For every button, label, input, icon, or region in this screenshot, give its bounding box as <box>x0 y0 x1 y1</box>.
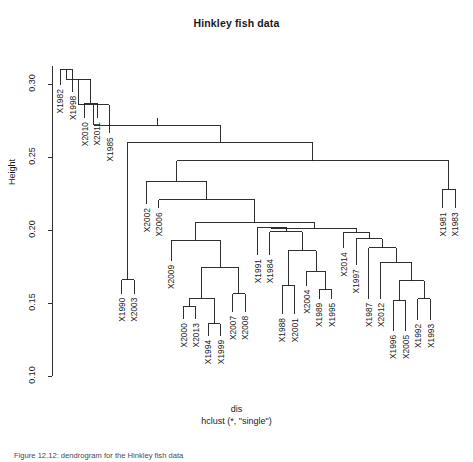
y-tick-label: 0.25 <box>27 142 37 170</box>
leaf-label: X1987 <box>364 302 374 327</box>
leaf-label: X2009 <box>166 264 176 289</box>
leaf-label: X1981 <box>438 212 448 237</box>
leaf-label: X2011 <box>92 122 102 146</box>
leaf-label: X1985 <box>105 137 115 162</box>
x-axis-sublabel: hclust (*, "single") <box>0 416 473 426</box>
leaf-label: X2008 <box>240 316 250 341</box>
leaf-label: X2000 <box>179 323 189 348</box>
leaf-label: X2010 <box>80 122 90 147</box>
leaf-label: X1982 <box>55 89 65 114</box>
leaf-label: X2003 <box>129 297 139 322</box>
leaf-label: X2005 <box>401 334 411 359</box>
y-tick-label: 0.20 <box>27 215 37 243</box>
plot-canvas: X1982X1998X2010X2011X1985X1990X2003X2002… <box>0 0 473 462</box>
leaf-label: X1996 <box>388 334 398 359</box>
leaf-label: X2006 <box>154 212 164 237</box>
leaf-label: X1983 <box>450 212 460 237</box>
leaf-label: X2014 <box>339 252 349 277</box>
leaf-label: X1988 <box>277 318 287 343</box>
leaf-label: X1984 <box>265 259 275 284</box>
leaf-label: X1999 <box>216 340 226 365</box>
leaf-label: X1992 <box>413 324 423 349</box>
leaf-label: X2002 <box>142 208 152 233</box>
leaf-label: X2004 <box>302 289 312 314</box>
leaf-label: X2007 <box>228 316 238 341</box>
leaf-label: X1995 <box>327 302 337 327</box>
leaf-label: X1990 <box>117 297 127 322</box>
leaf-label: X2013 <box>191 323 201 348</box>
dendrogram-figure: Hinkley fish data Height X1982X1998X2010… <box>0 0 473 462</box>
y-tick-label: 0.30 <box>27 69 37 97</box>
leaf-label: X2012 <box>376 302 386 327</box>
x-axis-label: dis <box>0 404 473 414</box>
leaf-label: X1994 <box>203 340 213 365</box>
leaf-label: X1993 <box>426 324 436 349</box>
leaf-label: X1997 <box>351 269 361 294</box>
leaf-label: X1991 <box>253 259 263 284</box>
y-tick-label: 0.15 <box>27 288 37 316</box>
y-tick-label: 0.10 <box>27 361 37 389</box>
leaf-label: X2001 <box>290 318 300 343</box>
leaf-label: X1998 <box>68 95 78 120</box>
leaf-label: X1989 <box>314 302 324 327</box>
figure-caption: Figure 12.12: dendrogram for the Hinkley… <box>14 451 464 462</box>
